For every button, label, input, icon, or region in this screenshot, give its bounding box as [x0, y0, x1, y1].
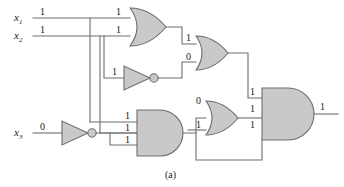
- input-label-x3: x3: [13, 126, 23, 141]
- value-or3-in-b: 1: [196, 119, 201, 130]
- figure-caption: (a): [165, 169, 176, 181]
- value-and1-in-b: 1: [125, 122, 130, 133]
- value-x1: 1: [40, 6, 45, 17]
- value-output: 1: [320, 101, 325, 112]
- value-or1-in-a: 1: [116, 6, 121, 17]
- figure-canvas: x1 x2 x3 1 1 0 1 1 1 1 1 1 1 0 0 1 1 1 1…: [0, 0, 344, 187]
- label-layer: x1 x2 x3 1 1 0 1 1 1 1 1 1 1 0 0 1 1 1 1…: [0, 0, 344, 187]
- value-and2-in-a: 1: [250, 86, 255, 97]
- value-and1-in-c: 1: [125, 134, 130, 145]
- value-and2-in-c: 1: [250, 119, 255, 130]
- value-or1-in-b: 1: [116, 24, 121, 35]
- value-and1-in-a: 1: [125, 110, 130, 121]
- value-or2-in-a: 1: [186, 32, 191, 43]
- value-x2: 1: [40, 24, 45, 35]
- value-and2-in-b: 1: [250, 103, 255, 114]
- input-label-x2: x2: [13, 29, 23, 44]
- input-label-x1: x1: [13, 11, 22, 26]
- value-or3-in-a: 0: [196, 95, 201, 106]
- value-or2-in-b: 0: [186, 51, 191, 62]
- value-x3: 0: [40, 121, 45, 132]
- value-not1-in: 1: [112, 66, 117, 77]
